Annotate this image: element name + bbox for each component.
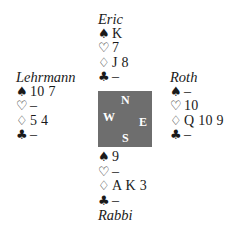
west-hearts-cards: – (30, 99, 37, 114)
north-clubs: ♣– (98, 70, 129, 85)
south-spades-cards: 9 (112, 150, 119, 165)
west-diamonds: ♢5 4 (16, 114, 76, 129)
compass-south-label: S (122, 132, 129, 144)
east-player-name: Roth (170, 70, 224, 85)
spade-icon: ♠ (170, 85, 184, 100)
east-clubs: ♣– (170, 128, 224, 143)
west-hand: Lehrmann ♠10 7 ♡– ♢5 4 ♣– (16, 70, 76, 143)
south-hand: ♠9 ♡– ♢A K 3 ♣– Rabbi (98, 150, 147, 223)
west-spades: ♠10 7 (16, 85, 76, 100)
heart-icon: ♡ (98, 165, 112, 180)
compass-west-label: W (103, 111, 115, 123)
diamond-icon: ♢ (98, 179, 112, 194)
east-diamonds-cards: Q 10 9 (184, 114, 224, 129)
south-player-name: Rabbi (98, 208, 147, 223)
north-hand: Eric ♠K ♡7 ♢J 8 ♣– (98, 12, 129, 85)
west-diamonds-cards: 5 4 (30, 114, 48, 129)
north-diamonds: ♢J 8 (98, 56, 129, 71)
heart-icon: ♡ (170, 99, 184, 114)
compass-east-label: E (139, 116, 147, 128)
heart-icon: ♡ (98, 41, 112, 56)
west-spades-cards: 10 7 (30, 85, 56, 100)
north-spades-cards: K (112, 27, 122, 42)
compass-north-label: N (121, 94, 130, 106)
south-clubs: ♣– (98, 194, 147, 209)
north-player-name: Eric (98, 12, 129, 27)
north-hearts-cards: 7 (112, 41, 119, 56)
north-diamonds-cards: J 8 (112, 56, 129, 71)
south-diamonds-cards: A K 3 (112, 179, 147, 194)
east-hearts-cards: 10 (184, 99, 199, 114)
west-clubs: ♣– (16, 128, 76, 143)
club-icon: ♣ (98, 194, 112, 209)
club-icon: ♣ (170, 128, 184, 143)
heart-icon: ♡ (16, 99, 30, 114)
spade-icon: ♠ (98, 150, 112, 165)
compass-table: N W E S (98, 91, 152, 147)
spade-icon: ♠ (98, 27, 112, 42)
south-hearts-cards: – (112, 165, 119, 180)
club-icon: ♣ (16, 128, 30, 143)
north-hearts: ♡7 (98, 41, 129, 56)
south-hearts: ♡– (98, 165, 147, 180)
north-spades: ♠K (98, 27, 129, 42)
south-diamonds: ♢A K 3 (98, 179, 147, 194)
south-clubs-cards: – (112, 194, 119, 209)
east-hand: Roth ♠– ♡10 ♢Q 10 9 ♣– (170, 70, 224, 143)
east-spades-cards: – (184, 85, 191, 100)
west-clubs-cards: – (30, 128, 37, 143)
spade-icon: ♠ (16, 85, 30, 100)
east-clubs-cards: – (184, 128, 191, 143)
east-hearts: ♡10 (170, 99, 224, 114)
club-icon: ♣ (98, 70, 112, 85)
north-clubs-cards: – (112, 70, 119, 85)
diamond-icon: ♢ (170, 114, 184, 129)
west-hearts: ♡– (16, 99, 76, 114)
south-spades: ♠9 (98, 150, 147, 165)
diamond-icon: ♢ (16, 114, 30, 129)
east-diamonds: ♢Q 10 9 (170, 114, 224, 129)
east-spades: ♠– (170, 85, 224, 100)
diamond-icon: ♢ (98, 56, 112, 71)
west-player-name: Lehrmann (16, 70, 76, 85)
